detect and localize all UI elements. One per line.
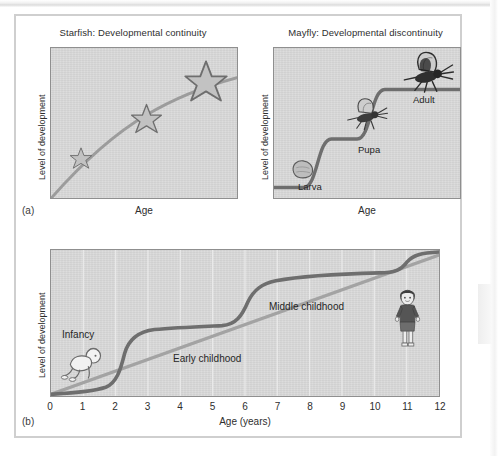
human-curves-svg	[51, 250, 439, 397]
human-phase-middle-childhood: Middle childhood	[269, 301, 344, 312]
starfish-panel-title: Starfish: Developmental continuity	[33, 27, 233, 38]
human-xtick-7: 7	[271, 401, 285, 412]
human-xtick-0: 0	[43, 401, 57, 412]
infant-crawling-icon	[61, 342, 107, 384]
mayfly-y-axis-label: Level of development	[260, 94, 270, 180]
human-xtick-10: 10	[368, 401, 382, 412]
mayfly-stage-pupa: Pupa	[358, 144, 380, 155]
starfish-small-icon	[69, 146, 93, 170]
mayfly-pupa-icon	[344, 95, 392, 133]
starfish-x-axis-label: Age	[50, 205, 238, 216]
human-xtick-1: 1	[76, 401, 90, 412]
child-standing-icon	[394, 285, 421, 349]
mayfly-stage-larva: Larva	[298, 181, 322, 192]
human-xtick-2: 2	[108, 401, 122, 412]
scan-right-edge	[490, 0, 498, 456]
human-xtick-6: 6	[238, 401, 252, 412]
mayfly-x-axis-label: Age	[273, 205, 461, 216]
starfish-y-axis-label: Level of development	[37, 94, 47, 180]
human-y-axis-label: Level of development	[37, 292, 47, 378]
human-xtick-4: 4	[173, 401, 187, 412]
panel-b-letter: (b)	[22, 416, 34, 427]
starfish-large-icon	[183, 58, 229, 104]
mayfly-larva-icon	[290, 159, 315, 179]
human-xtick-5: 5	[206, 401, 220, 412]
mayfly-adult-icon	[400, 50, 456, 94]
human-xtick-3: 3	[141, 401, 155, 412]
human-xtick-11: 11	[401, 401, 415, 412]
human-phase-early-childhood: Early childhood	[173, 353, 241, 364]
mayfly-panel-title: Mayfly: Developmental discontinuity	[258, 27, 473, 38]
panel-a-letter: (a)	[22, 205, 34, 216]
human-xtick-12: 12	[433, 401, 447, 412]
starfish-plot-area	[50, 47, 238, 199]
human-x-axis-label: Age (years)	[50, 416, 440, 427]
human-phase-infancy: Infancy	[62, 329, 94, 340]
human-xtick-9: 9	[336, 401, 350, 412]
mayfly-stage-adult: Adult	[413, 94, 435, 105]
scan-top-edge	[0, 0, 498, 7]
scan-right-artifact	[478, 284, 492, 344]
human-xtick-8: 8	[303, 401, 317, 412]
mayfly-plot-area: Larva Pupa Adult	[273, 47, 461, 199]
human-plot-area: Infancy Early childhood Middle childhood	[50, 249, 440, 397]
starfish-medium-icon	[130, 102, 163, 135]
